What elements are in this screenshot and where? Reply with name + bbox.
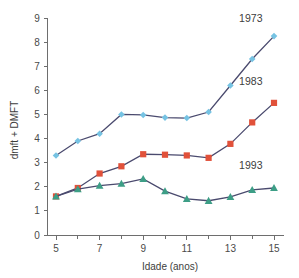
data-point-1983-age-7 [97,170,103,176]
y-axis-title: dmft + DMFT [9,101,20,160]
series-label-1983: 1983 [239,75,263,87]
data-point-1983-age-14 [249,119,255,125]
data-point-1993-age-9 [139,175,147,182]
data-point-1973-age-11 [184,115,191,122]
line-chart: 0123456789579111315 197319831993 Idade (… [0,0,299,278]
data-point-1983-age-15 [271,100,277,106]
axis-ticks [44,18,274,240]
x-tick-label-5: 5 [53,243,59,254]
series-1993 [52,175,278,204]
x-tick-label-13: 13 [225,243,237,254]
y-tick-label-0: 0 [34,230,40,241]
series-labels: 197319831993 [239,12,263,171]
data-point-1983-age-10 [162,152,168,158]
y-tick-label-9: 9 [34,13,40,24]
data-point-1983-age-8 [118,163,124,169]
data-point-1983-age-9 [140,151,146,157]
data-point-1983-age-11 [184,152,190,158]
x-tick-label-11: 11 [182,243,193,254]
data-point-1983-age-12 [206,155,212,161]
y-tick-label-3: 3 [34,157,40,168]
series-line-1973 [56,36,274,155]
y-tick-label-8: 8 [34,37,40,48]
x-axis-title: Idade (anos) [142,261,198,272]
y-tick-label-1: 1 [34,205,40,216]
data-series [52,33,278,204]
y-tick-label-6: 6 [34,85,40,96]
y-tick-label-5: 5 [34,109,40,120]
axis-tick-labels: 0123456789579111315 [34,13,280,255]
data-point-1973-age-10 [162,114,169,121]
x-tick-label-9: 9 [140,243,146,254]
data-point-1983-age-13 [227,141,233,147]
series-1973 [53,33,278,159]
series-label-1973: 1973 [239,12,263,24]
data-point-1973-age-9 [140,112,147,119]
series-label-1993: 1993 [239,159,263,171]
data-point-1993-age-10 [161,187,169,194]
x-tick-label-15: 15 [268,243,280,254]
y-tick-label-2: 2 [34,181,40,192]
chart-container: 0123456789579111315 197319831993 Idade (… [0,0,299,278]
y-tick-label-4: 4 [34,133,40,144]
x-tick-label-7: 7 [97,243,103,254]
y-tick-label-7: 7 [34,61,40,72]
